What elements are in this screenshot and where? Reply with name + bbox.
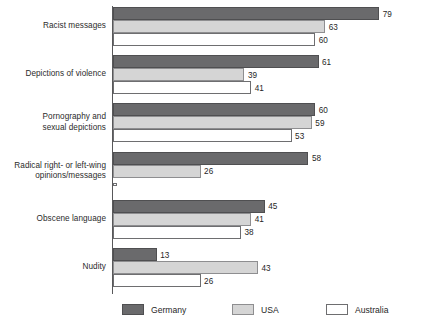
bar-row: 58 [113,152,422,165]
bar-australia [113,81,251,94]
bar-value-label: 41 [251,215,264,224]
bar-row [113,178,422,191]
legend-label: USA [261,305,279,315]
bar-row: 60 [113,103,422,116]
bar-usa [113,68,244,81]
bar-value-label: 43 [258,263,271,272]
bar-row: 26 [113,274,422,287]
bar-value-label: 60 [315,35,328,44]
legend-item-usa[interactable]: USA [232,304,279,315]
bar-row: 26 [113,165,422,178]
plot-area: Racist messages796360Depictions of viole… [0,0,422,298]
bar-group: Pornography and sexual depictions605953 [0,103,422,142]
bar-value-label: 60 [315,105,328,114]
category-axis-label: Depictions of violence [0,69,106,79]
bar-value-label: 13 [157,250,170,259]
category-axis-label: Nudity [0,262,106,272]
bar-row: 79 [113,7,422,20]
bar-usa [113,213,251,226]
bar-germany [113,55,319,68]
bar-value-label: 58 [308,154,321,163]
bar-row: 38 [113,226,422,239]
bar-value-label: 26 [201,276,214,285]
bar-germany [113,7,379,20]
bar-germany [113,200,265,213]
bar-value-label: 61 [319,57,332,66]
white-swatch [326,304,348,315]
legend-item-australia[interactable]: Australia [326,304,388,315]
bar-row: 41 [113,81,422,94]
bar-usa [113,20,325,33]
bar-group: Radical right- or left-wing opinions/mes… [0,152,422,191]
bar-germany [113,248,157,261]
bar-value-label: 41 [251,83,264,92]
bar-value-label: 38 [241,228,254,237]
bar-row: 60 [113,33,422,46]
bar-value-label: 63 [325,22,338,31]
bar-value-label: 59 [312,118,325,127]
bar-row: 63 [113,20,422,33]
bar-germany [113,152,308,165]
bar-usa [113,116,312,129]
bar-value-label: 79 [379,9,392,18]
bar-group: Obscene language454138 [0,200,422,239]
bar-value-label: 53 [292,131,305,140]
category-axis-label: Obscene language [0,214,106,224]
category-axis-label: Pornography and sexual depictions [0,112,106,133]
bar-australia [113,129,292,142]
dark-gray-swatch [122,304,144,315]
bar-australia [113,274,201,287]
bar-row: 39 [113,68,422,81]
grouped-bar-chart: Racist messages796360Depictions of viole… [0,0,422,327]
bar-germany [113,103,315,116]
bar-row: 59 [113,116,422,129]
bar-australia [113,183,117,186]
bar-value-label: 45 [265,202,278,211]
bar-row: 13 [113,248,422,261]
bar-row: 61 [113,55,422,68]
bar-row: 43 [113,261,422,274]
bar-row: 53 [113,129,422,142]
legend-label: Australia [355,305,388,315]
bar-usa [113,261,258,274]
category-axis-label: Radical right- or left-wing opinions/mes… [0,161,106,182]
bar-row: 45 [113,200,422,213]
category-axis-label: Racist messages [0,21,106,31]
bar-value-label: 39 [244,70,257,79]
bar-value-label: 26 [201,167,214,176]
bar-group: Depictions of violence613941 [0,55,422,94]
bar-usa [113,165,201,178]
bar-group: Nudity134326 [0,248,422,287]
legend-item-germany[interactable]: Germany [122,304,186,315]
bar-row: 41 [113,213,422,226]
light-gray-swatch [232,304,254,315]
bar-australia [113,33,315,46]
chart-legend: GermanyUSAAustralia [0,299,422,327]
bar-australia [113,226,241,239]
bar-group: Racist messages796360 [0,7,422,46]
legend-label: Germany [151,305,186,315]
